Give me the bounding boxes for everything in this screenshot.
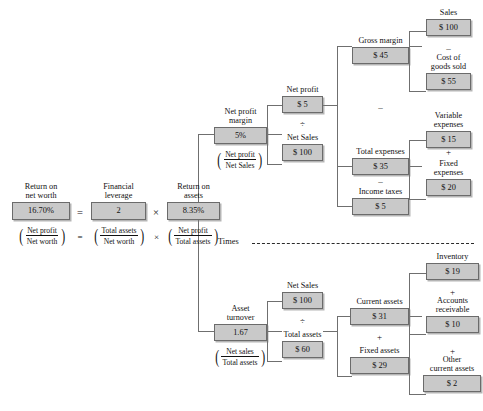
node-value: $ 60 bbox=[282, 341, 323, 358]
fraction-denominator: Net Sales bbox=[224, 160, 256, 169]
node-label: Cost ofgoods sold bbox=[426, 53, 471, 71]
paren-right: ) bbox=[61, 231, 65, 241]
node-net-profit-margin: Net profitmargin 5% bbox=[214, 107, 267, 144]
operator-divide-2: ÷ bbox=[282, 317, 323, 326]
node-value: $ 29 bbox=[350, 357, 409, 374]
connector bbox=[323, 105, 337, 106]
dupont-diagram: Return onnet worth 16.70% = Financiallev… bbox=[0, 0, 483, 411]
node-value: 16.70% bbox=[12, 202, 70, 220]
node-value: $ 19 bbox=[426, 263, 479, 280]
connector bbox=[323, 331, 337, 332]
node-net-sales-low: Net Sales $ 100 bbox=[282, 281, 323, 309]
connector bbox=[198, 331, 214, 332]
node-gross-margin: Gross margin $ 45 bbox=[352, 36, 409, 64]
connector bbox=[337, 206, 352, 207]
connector bbox=[337, 166, 352, 167]
operator-equals-fraction: = bbox=[74, 233, 86, 242]
node-label: Return onnet worth bbox=[12, 182, 70, 200]
connector bbox=[409, 91, 426, 92]
node-label: Net profitmargin bbox=[214, 107, 267, 125]
operator-plus-2: + bbox=[426, 148, 471, 157]
connector bbox=[409, 140, 410, 199]
fraction-numerator: Net sales bbox=[221, 347, 258, 357]
node-value: 2 bbox=[91, 202, 146, 220]
paren-right: ) bbox=[140, 231, 144, 241]
node-label: Total expenses bbox=[352, 147, 409, 156]
node-value: $ 100 bbox=[426, 19, 471, 36]
node-label: Total assets bbox=[282, 330, 323, 339]
connector bbox=[267, 134, 282, 135]
node-value: $ 2 bbox=[423, 375, 481, 392]
connector bbox=[409, 31, 410, 91]
fraction-numerator: Net profit bbox=[26, 226, 59, 236]
node-label: Accountsreceivable bbox=[426, 296, 479, 314]
node-label: Fixed assets bbox=[350, 346, 409, 355]
paren-left: ( bbox=[19, 231, 23, 241]
node-label: Variableexpenses bbox=[426, 111, 471, 129]
node-net-sales-mid: Net Sales $ 100 bbox=[282, 133, 323, 161]
operator-minus-3: – bbox=[426, 44, 471, 53]
fraction-return-on-net-worth: ( Net profit Net worth ) bbox=[10, 226, 74, 246]
fraction-denominator: Net worth bbox=[26, 236, 59, 245]
node-return-on-net-worth: Return onnet worth 16.70% bbox=[12, 182, 70, 220]
node-asset-turnover: Assetturnover 1.67 bbox=[214, 304, 267, 341]
node-label: Sales bbox=[426, 8, 471, 17]
node-return-on-assets: Return onassets 8.35% bbox=[167, 182, 220, 220]
node-value: $ 35 bbox=[352, 158, 409, 175]
connector bbox=[409, 273, 426, 274]
connector bbox=[337, 46, 352, 47]
connector bbox=[409, 199, 426, 200]
connector bbox=[267, 301, 282, 302]
fraction-denominator: Total assets bbox=[221, 357, 258, 366]
node-income-taxes: Income taxes $ 5 bbox=[352, 187, 409, 215]
node-current-assets: Current assets $ 31 bbox=[350, 297, 409, 325]
node-label: Income taxes bbox=[352, 187, 409, 196]
node-cost-of-goods-sold: Cost ofgoods sold $ 55 bbox=[426, 53, 471, 90]
node-value: $ 45 bbox=[352, 47, 409, 64]
connector bbox=[409, 316, 422, 317]
node-value: $ 10 bbox=[426, 316, 479, 333]
fraction-numerator: Net profit bbox=[174, 226, 211, 236]
operator-minus-1: – bbox=[352, 103, 409, 112]
connector bbox=[337, 376, 352, 377]
connector bbox=[409, 46, 422, 47]
node-label: Net Sales bbox=[282, 281, 323, 290]
node-label: Net profit bbox=[282, 85, 323, 94]
fraction-denominator: Total assets bbox=[174, 236, 211, 245]
node-value: $ 20 bbox=[426, 179, 471, 196]
node-total-assets-low: Total assets $ 60 bbox=[282, 330, 323, 358]
connector bbox=[337, 316, 338, 376]
operator-divide-1: ÷ bbox=[282, 120, 323, 129]
node-sales: Sales $ 100 bbox=[426, 8, 471, 36]
node-label: Financialleverage bbox=[91, 182, 146, 200]
node-value: $ 55 bbox=[426, 73, 471, 90]
node-label: Net Sales bbox=[282, 133, 323, 142]
connector bbox=[409, 140, 426, 141]
node-value: $ 100 bbox=[282, 292, 323, 309]
operator-minus-2: – bbox=[352, 177, 409, 186]
fraction-numerator: Net profit bbox=[224, 150, 256, 160]
node-variable-expenses: Variableexpenses $ 15 bbox=[426, 111, 471, 148]
node-fixed-expenses: Fixedexpenses $ 20 bbox=[426, 159, 471, 196]
node-net-profit: Net profit $ 5 bbox=[282, 85, 323, 113]
paren-left: ( bbox=[168, 231, 172, 241]
connector bbox=[337, 46, 338, 206]
fraction-net-profit-margin: ( Net profit Net Sales ) bbox=[208, 150, 272, 170]
node-label: Current assets bbox=[350, 297, 409, 306]
node-total-expenses: Total expenses $ 35 bbox=[352, 147, 409, 175]
node-value: 8.35% bbox=[167, 202, 220, 220]
times-separator-label: Times bbox=[218, 237, 239, 246]
fraction-numerator: Total assets bbox=[100, 226, 137, 236]
connector bbox=[409, 394, 426, 395]
paren-left: ( bbox=[94, 231, 98, 241]
fraction-return-on-assets: ( Net profit Total assets ) bbox=[160, 226, 226, 246]
node-financial-leverage: Financialleverage 2 bbox=[91, 182, 146, 220]
connector bbox=[409, 31, 426, 32]
node-value: $ 15 bbox=[426, 131, 471, 148]
operator-plus-1: + bbox=[350, 333, 409, 342]
node-label: Othercurrent assets bbox=[423, 355, 481, 373]
connector bbox=[267, 105, 282, 106]
paren-right: ) bbox=[261, 352, 265, 362]
node-value: 1.67 bbox=[214, 324, 267, 341]
node-value: $ 100 bbox=[282, 144, 323, 161]
